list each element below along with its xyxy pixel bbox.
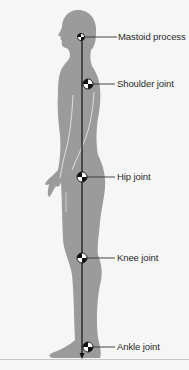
posture-diagram: Mastoid process Shoulder joint Hip joint… xyxy=(0,0,189,370)
marker-shoulder-icon xyxy=(83,79,93,89)
marker-knee-icon xyxy=(77,253,87,263)
label-ankle-joint: Ankle joint xyxy=(117,342,160,352)
label-shoulder-joint: Shoulder joint xyxy=(117,79,174,89)
label-mastoid-process: Mastoid process xyxy=(118,32,186,42)
label-hip-joint: Hip joint xyxy=(117,172,150,182)
body-silhouette xyxy=(45,10,105,358)
marker-mastoid-icon xyxy=(77,33,84,40)
label-knee-joint: Knee joint xyxy=(117,253,158,263)
marker-ankle-icon xyxy=(83,342,93,352)
marker-hip-icon xyxy=(77,172,87,182)
figure-svg xyxy=(0,0,189,370)
